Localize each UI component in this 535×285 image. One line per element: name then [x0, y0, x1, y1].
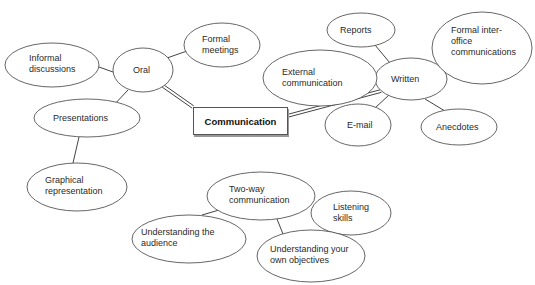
connector-oral-formal-meetings [167, 51, 187, 58]
node-label-external: External communication [282, 67, 343, 89]
connector-two-way-objectives [277, 219, 283, 234]
connector-written-reports [375, 45, 390, 63]
node-label-two-way: Two-way communication [229, 184, 290, 206]
central-node-communication: Communication [193, 107, 288, 135]
node-label-anecdotes: Anecdotes [436, 122, 479, 133]
node-label-audience: Understanding the audience [141, 227, 215, 249]
node-label-email: E-mail [347, 120, 373, 131]
node-label-formal-inter-office: Formal inter- office communications [451, 25, 516, 58]
node-label-presentations: Presentations [53, 113, 108, 124]
node-label-reports: Reports [340, 25, 372, 36]
node-label-graphical: Graphical representation [45, 175, 103, 197]
connector-oral-informal [99, 67, 113, 72]
connector-presentations-graphical [73, 137, 79, 163]
connector-written-email [375, 95, 389, 108]
node-label-listening: Listening skills [333, 202, 369, 224]
node-label-written: Written [391, 74, 419, 85]
node-label-objectives: Understanding your own objectives [270, 244, 349, 266]
node-label-informal: Informal discussions [29, 53, 76, 75]
node-label-formal-meetings: Formal meetings [202, 34, 239, 56]
connector-oral-communication [164, 85, 194, 106]
connector-written-anecdotes [425, 99, 445, 111]
central-node-label: Communication [205, 116, 277, 127]
connector-oral-communication [162, 87, 192, 108]
node-label-oral: Oral [133, 65, 150, 76]
